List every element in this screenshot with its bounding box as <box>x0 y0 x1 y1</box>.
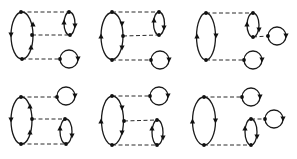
vertex-dot <box>242 58 246 62</box>
vertex-dot <box>55 95 59 99</box>
arrow-down-icon <box>256 27 261 32</box>
arrow-down-icon <box>254 134 259 139</box>
arrow-down-icon <box>213 118 218 123</box>
vertex-dot <box>157 10 161 14</box>
interaction-line <box>123 35 159 36</box>
arrow-down-icon <box>119 105 124 110</box>
vertex-dot <box>67 10 71 14</box>
arrow-up-icon <box>151 17 156 22</box>
vertex-dot <box>58 57 62 61</box>
arrow-up-icon <box>98 118 103 123</box>
arrow-up-icon <box>244 21 249 26</box>
vertex-dot <box>30 117 34 121</box>
vertex-dot <box>110 58 114 62</box>
vertex-dot <box>251 11 255 15</box>
vertex-dot <box>148 94 152 98</box>
vertex-dot <box>204 58 208 62</box>
vertex-dot <box>240 95 244 99</box>
arrow-up-icon <box>27 103 32 108</box>
diagram-5 <box>98 87 170 147</box>
diagram-1 <box>8 10 80 68</box>
vertex-dot <box>19 142 23 146</box>
arrow-down-icon <box>166 57 171 62</box>
arrow-down-icon <box>259 57 264 62</box>
vertex-dot <box>251 35 255 39</box>
tadpole-loop <box>244 51 262 69</box>
arrow-up-icon <box>149 125 154 130</box>
vertex-dot <box>157 33 161 37</box>
fermion-loop <box>11 97 32 144</box>
diagram-2 <box>98 10 171 69</box>
interaction-line <box>124 120 157 121</box>
vertex-dot <box>263 117 267 121</box>
fermion-loop <box>60 119 72 144</box>
vertex-dot <box>149 58 153 62</box>
vertex-dot <box>19 10 23 14</box>
arrow-up-icon <box>27 129 32 134</box>
diagram-4 <box>8 87 77 146</box>
arrow-down-icon <box>69 133 74 138</box>
arrow-up-icon <box>28 44 33 49</box>
vertex-dot <box>68 33 72 37</box>
arrow-down-icon <box>280 116 285 121</box>
vertex-dot <box>202 95 206 99</box>
vertex-dot <box>20 57 24 61</box>
vertex-dot <box>155 143 159 147</box>
fermion-loop <box>245 119 257 145</box>
arrow-down-icon <box>257 94 262 99</box>
fermion-loop <box>154 12 165 35</box>
tadpole-loop <box>60 50 78 68</box>
arrow-down-icon <box>119 21 124 26</box>
tadpole-loop <box>150 87 168 105</box>
tadpole-loop <box>268 27 286 45</box>
arrow-down-icon <box>160 135 165 140</box>
arrow-down-icon <box>119 45 124 50</box>
arrow-down-icon <box>8 117 13 122</box>
vertex-dot <box>204 11 208 15</box>
vertex-dot <box>110 94 114 98</box>
arrow-down-icon <box>72 93 77 98</box>
tadpole-loop <box>242 88 260 106</box>
tadpole-loop <box>57 87 75 105</box>
arrow-up-icon <box>98 33 103 38</box>
fermion-loop <box>197 13 216 60</box>
fermion-loop <box>101 13 123 60</box>
vertex-dot <box>110 143 114 147</box>
arrow-down-icon <box>161 25 166 30</box>
arrow-down-icon <box>72 23 77 28</box>
vertex-dot <box>202 143 206 147</box>
diagram-3 <box>194 11 288 69</box>
arrow-down-icon <box>213 33 218 38</box>
arrow-up-icon <box>190 118 195 123</box>
vertex-dot <box>63 117 67 121</box>
vertex-dot <box>122 119 126 123</box>
arrow-down-icon <box>283 33 288 38</box>
vertex-dot <box>30 33 34 37</box>
vertex-dot <box>249 143 253 147</box>
arrow-down-icon <box>165 93 170 98</box>
fermion-loop <box>102 96 124 145</box>
fermion-loop <box>152 120 163 145</box>
arrow-down-icon <box>8 32 13 37</box>
tadpole-loop <box>151 51 169 69</box>
arrow-up-icon <box>194 33 199 38</box>
vertex-dot <box>266 34 270 38</box>
fermion-loop <box>193 97 216 145</box>
arrow-up-icon <box>57 125 62 130</box>
tadpole-loop <box>265 110 283 128</box>
feynman-diagram-figure <box>0 0 297 159</box>
vertex-dot <box>249 117 253 121</box>
arrow-up-icon <box>242 125 247 130</box>
vertex-dot <box>19 95 23 99</box>
arrow-down-icon <box>75 56 80 61</box>
vertex-dot <box>121 34 125 38</box>
diagram-6 <box>190 88 286 147</box>
vertex-dot <box>155 118 159 122</box>
vertex-dot <box>64 142 68 146</box>
arrow-up-icon <box>61 19 66 24</box>
arrow-down-icon <box>119 130 124 135</box>
fermion-loop <box>11 12 33 59</box>
vertex-dot <box>110 10 114 14</box>
